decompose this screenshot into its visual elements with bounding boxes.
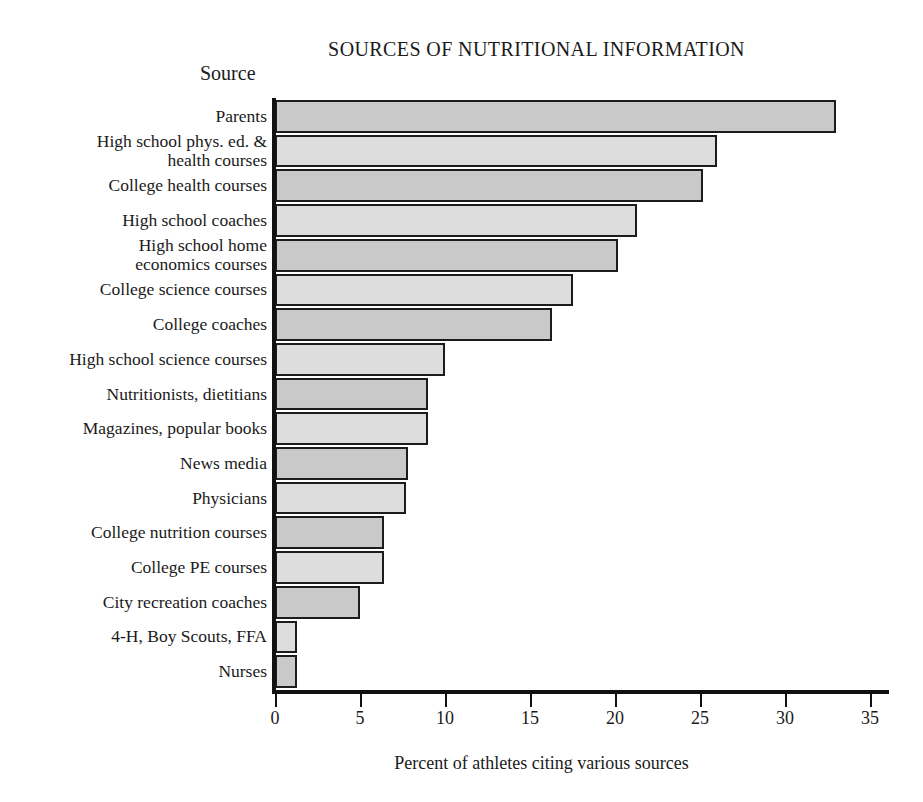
x-axis-tick-label: 30 [765,708,805,729]
x-axis-tick-label: 15 [510,708,550,729]
bar [275,621,297,654]
bar [275,343,445,376]
category-label: College coaches [5,315,275,334]
category-label: College health courses [5,176,275,195]
category-label: Nutritionists, dietitians [5,385,275,404]
bar-row [275,169,887,202]
category-label: Physicians [5,489,275,508]
x-axis-tick-label: 20 [595,708,635,729]
x-axis-tick [870,694,872,707]
bar-row [275,586,887,619]
category-label-group: ParentsHigh school phys. ed. &health cou… [0,100,275,690]
category-label: College PE courses [5,558,275,577]
x-axis-tick [615,694,617,707]
bar [275,655,297,688]
bar [275,586,360,619]
bar-row [275,135,887,168]
category-label: Parents [5,107,275,126]
x-axis-line [272,690,889,694]
bar-row [275,204,887,237]
bar-row [275,412,887,445]
x-axis-tick-label: 10 [425,708,465,729]
plot-area [275,100,887,690]
x-axis-tick [785,694,787,707]
category-label: Nurses [5,662,275,681]
bar [275,274,573,307]
category-label: High school coaches [5,211,275,230]
bar-row [275,551,887,584]
category-label: Magazines, popular books [5,419,275,438]
x-axis-tick [700,694,702,707]
bar [275,135,717,168]
chart-title: SOURCES OF NUTRITIONAL INFORMATION [0,38,923,61]
category-label: High school science courses [5,350,275,369]
bar [275,308,552,341]
bar [275,412,428,445]
bar [275,482,406,515]
bar [275,516,384,549]
bar-row [275,239,887,272]
category-label: College nutrition courses [5,523,275,542]
bar-row [275,516,887,549]
category-label: High school phys. ed. &health courses [5,132,275,170]
y-axis-title: Source [200,62,256,85]
bar-row [275,378,887,411]
bar-row [275,482,887,515]
x-axis-tick-label: 0 [255,708,295,729]
category-label: College science courses [5,280,275,299]
bar-row [275,655,887,688]
bar-row [275,274,887,307]
x-axis-tick [275,694,277,707]
bar-chart: SOURCES OF NUTRITIONAL INFORMATION Sourc… [0,0,923,802]
category-label: News media [5,454,275,473]
bar [275,169,703,202]
x-axis-tick [360,694,362,707]
x-axis-tick-label: 35 [850,708,890,729]
bar-row [275,343,887,376]
bar-row [275,100,887,133]
bar [275,204,637,237]
x-axis-tick [530,694,532,707]
category-label: City recreation coaches [5,593,275,612]
category-label: High school homeeconomics courses [5,236,275,274]
x-axis-title: Percent of athletes citing various sourc… [0,753,923,774]
x-axis-tick-label: 5 [340,708,380,729]
bar-row [275,621,887,654]
bar-row [275,308,887,341]
bar [275,447,408,480]
category-label: 4-H, Boy Scouts, FFA [5,627,275,646]
bar [275,378,428,411]
bar-row [275,447,887,480]
bar [275,239,618,272]
bar [275,100,836,133]
x-axis-tick [445,694,447,707]
x-axis-tick-label: 25 [680,708,720,729]
bar [275,551,384,584]
y-axis-line [272,98,276,692]
